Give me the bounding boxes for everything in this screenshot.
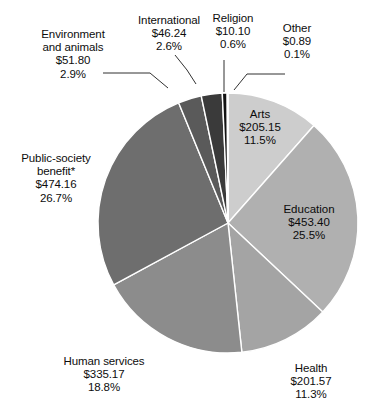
slice-label-public-society-percent: 26.7% bbox=[2, 192, 110, 205]
slice-label-environment-name-1: Environment bbox=[20, 28, 126, 41]
leader-line-international bbox=[175, 55, 196, 84]
slice-label-other-name: Other bbox=[268, 22, 326, 35]
slice-label-health-name: Health bbox=[258, 362, 364, 375]
slice-label-education: Education $453.40 25.5% bbox=[250, 203, 368, 243]
slice-label-religion-value: $10.10 bbox=[202, 25, 264, 38]
slice-label-education-name: Education bbox=[250, 203, 368, 216]
slice-label-human-services: Human services $335.17 18.8% bbox=[30, 355, 178, 395]
slice-label-human-services-percent: 18.8% bbox=[30, 381, 178, 394]
slice-label-environment-percent: 2.9% bbox=[20, 68, 126, 81]
slice-label-arts-percent: 11.5% bbox=[212, 134, 308, 147]
slice-label-human-services-value: $335.17 bbox=[30, 368, 178, 381]
slice-label-arts-name: Arts bbox=[212, 108, 308, 121]
slice-label-public-society-value: $474.16 bbox=[2, 178, 110, 191]
slice-label-health-value: $201.57 bbox=[258, 375, 364, 388]
slice-label-health-percent: 11.3% bbox=[258, 388, 364, 401]
slice-label-environment-and-animals: Environment and animals $51.80 2.9% bbox=[20, 28, 126, 81]
leader-lines bbox=[103, 55, 285, 92]
slice-label-human-services-name: Human services bbox=[30, 355, 178, 368]
slice-label-other-value: $0.89 bbox=[268, 35, 326, 48]
slice-label-arts-value: $205.15 bbox=[212, 121, 308, 134]
slice-label-other: Other $0.89 0.1% bbox=[268, 22, 326, 62]
slice-label-arts: Arts $205.15 11.5% bbox=[212, 108, 308, 148]
slice-label-environment-value: $51.80 bbox=[20, 54, 126, 67]
slice-label-religion-name: Religion bbox=[202, 12, 264, 25]
slice-label-public-society-name-2: benefit* bbox=[2, 165, 110, 178]
slice-label-public-society-name-1: Public-society bbox=[2, 152, 110, 165]
slice-label-education-value: $453.40 bbox=[250, 216, 368, 229]
slice-label-environment-name-2: and animals bbox=[20, 41, 126, 54]
slice-label-public-society-benefit: Public-society benefit* $474.16 26.7% bbox=[2, 152, 110, 205]
slice-label-health: Health $201.57 11.3% bbox=[258, 362, 364, 402]
leader-line-other bbox=[234, 74, 285, 90]
chart-canvas: Arts $205.15 11.5% Education $453.40 25.… bbox=[0, 0, 386, 417]
slice-label-religion: Religion $10.10 0.6% bbox=[202, 12, 264, 52]
slice-label-education-percent: 25.5% bbox=[250, 229, 368, 242]
slice-label-other-percent: 0.1% bbox=[268, 48, 326, 61]
slice-label-religion-percent: 0.6% bbox=[202, 38, 264, 51]
